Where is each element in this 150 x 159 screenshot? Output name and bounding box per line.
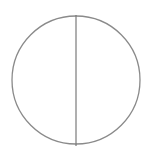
diagram-canvas xyxy=(0,0,150,159)
